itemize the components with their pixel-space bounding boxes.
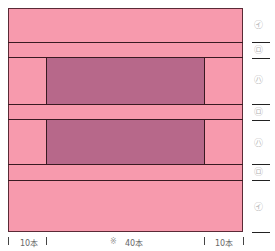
section-marker-strip-3: ㋺ xyxy=(250,167,266,177)
dimension-label-center: 40本 xyxy=(125,237,143,248)
tick-mark xyxy=(252,180,270,181)
section-marker-block-2: ㋩ xyxy=(250,138,266,148)
inner-block-1 xyxy=(46,57,205,105)
dimension-bar xyxy=(46,237,47,245)
section-marker-top-band: ㋑ xyxy=(250,20,266,30)
divider-line xyxy=(8,180,243,181)
tick-mark xyxy=(252,164,270,165)
dimension-bar xyxy=(8,237,9,245)
section-marker-block-1: ㋩ xyxy=(250,75,266,85)
section-marker-bottom-band: ㋑ xyxy=(250,202,266,212)
dimension-bar xyxy=(204,237,205,245)
divider-line xyxy=(8,42,243,43)
dimension-bar xyxy=(243,237,244,245)
section-marker-strip-2: ㋺ xyxy=(250,107,266,117)
tick-mark xyxy=(252,104,270,105)
inner-block-2 xyxy=(46,119,205,165)
tick-mark xyxy=(252,58,270,59)
section-marker-strip-1: ㋺ xyxy=(250,45,266,55)
dimension-label-left: 10本 xyxy=(20,237,38,248)
tick-mark xyxy=(252,42,270,43)
dimension-label-right: 10本 xyxy=(215,237,233,248)
tick-mark xyxy=(252,120,270,121)
dimension-center-mark: ※ xyxy=(110,237,117,246)
tick-mark xyxy=(252,232,270,233)
